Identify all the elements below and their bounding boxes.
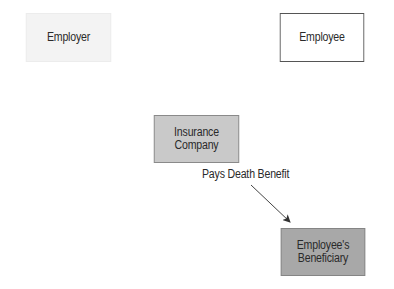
connector-layer bbox=[0, 0, 394, 289]
arrow-insurer-to-beneficiary bbox=[251, 185, 290, 222]
